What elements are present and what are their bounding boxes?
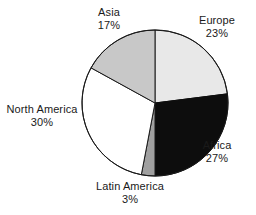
pie-chart-figure: Asia 17% Europe 23% Africa 27% North Ame… [0, 0, 256, 215]
pie-label-africa-name: Africa [186, 139, 248, 152]
pie-label-europe-name: Europe [184, 14, 250, 27]
pie-label-africa-value: 27% [186, 152, 248, 165]
pie-label-europe-value: 23% [184, 27, 250, 40]
pie-label-north-america: North America 30% [0, 103, 84, 128]
pie-label-latin-america: Latin America 3% [85, 180, 175, 205]
pie-label-latin-america-name: Latin America [85, 180, 175, 193]
pie-label-north-america-value: 30% [0, 116, 84, 129]
pie-label-asia-name: Asia [74, 6, 144, 19]
pie-label-asia: Asia 17% [74, 6, 144, 31]
pie-label-latin-america-value: 3% [85, 193, 175, 206]
pie-label-asia-value: 17% [74, 19, 144, 32]
pie-label-africa: Africa 27% [186, 139, 248, 164]
pie-slice-europe [155, 30, 227, 103]
pie-label-north-america-name: North America [0, 103, 84, 116]
pie-label-europe: Europe 23% [184, 14, 250, 39]
